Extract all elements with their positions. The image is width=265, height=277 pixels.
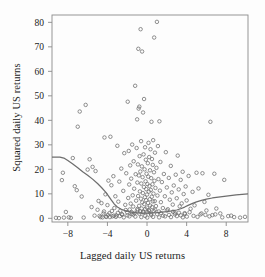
data-point [187,174,191,178]
data-point [139,170,143,174]
data-point [116,144,120,148]
data-point [191,190,195,194]
data-point [243,215,247,219]
x-tick-label: 0 [145,229,150,239]
data-point [222,178,226,182]
data-point [163,195,167,199]
data-point [149,176,153,180]
data-point [188,210,192,214]
y-tick-label: 20 [35,165,45,175]
data-point [182,192,186,196]
data-point [62,216,66,220]
data-point [215,207,219,211]
data-point [134,199,138,203]
data-point [154,204,158,208]
data-point [205,209,209,213]
data-point [84,103,88,107]
y-tick-label: 40 [35,116,45,126]
data-point [150,120,154,124]
y-tick-label: 10 [35,189,45,199]
data-point [107,179,111,183]
data-points [54,20,247,220]
data-point [146,182,150,186]
data-point [139,27,143,31]
x-tick-label: 8 [224,229,229,239]
data-point [140,50,144,54]
y-tick-label: 70 [35,42,45,52]
data-point [114,195,118,199]
data-point [167,176,171,180]
data-point [172,184,176,188]
data-point [71,156,75,160]
data-point [141,111,145,115]
y-tick-label: 50 [35,91,45,101]
data-point [219,212,223,216]
data-point [90,205,94,209]
data-point [139,139,143,143]
data-point [179,178,183,182]
data-point [64,210,68,214]
data-point [123,151,127,155]
data-point [151,138,155,142]
data-point [150,157,154,161]
data-point [100,201,104,205]
data-point [143,168,147,172]
data-point [153,179,157,183]
data-point [157,177,161,181]
data-point [112,174,116,178]
data-point [149,147,153,151]
data-point [169,164,173,168]
data-point [174,173,178,177]
data-point [193,204,197,208]
data-point [162,172,166,176]
data-point [158,120,162,124]
data-point [131,205,135,209]
data-point [165,186,169,190]
data-point [127,149,131,153]
data-point [158,189,162,193]
data-point [197,187,201,191]
x-tick-label: 4 [184,229,189,239]
y-tick-label: 0 [39,214,44,224]
data-point [82,216,86,220]
data-point [153,151,157,155]
data-point [94,169,98,173]
data-point [131,194,135,198]
data-point [169,215,173,219]
data-point [207,193,211,197]
data-point [117,200,121,204]
data-point [124,172,128,176]
data-point [118,180,122,184]
data-point [128,164,132,168]
data-point [160,180,164,184]
data-point [151,163,155,167]
data-point [152,36,156,40]
data-point [171,203,175,207]
data-point [109,135,113,139]
data-point [221,216,225,220]
data-point [127,183,131,187]
figure-container: −8−404801020304050607080 Lagged daily US… [0,0,265,277]
data-point [80,195,84,199]
y-axis-label: Squared daily US returns [11,18,22,218]
data-point [204,213,208,217]
data-point [159,200,163,204]
fit-curve [52,157,248,213]
data-point [140,165,144,169]
data-point [106,203,110,207]
data-point [140,215,144,219]
data-point [184,185,188,189]
data-point [147,141,151,145]
data-point [137,47,141,51]
data-point [155,20,159,24]
data-point [86,168,90,172]
data-point [151,183,155,187]
data-point [196,215,200,219]
y-tick-label: 60 [35,67,45,77]
axis-ticks [48,22,226,226]
data-point [168,198,172,202]
data-point [213,172,217,176]
data-point [141,175,145,179]
data-point [180,202,184,206]
scatter-plot-svg: −8−404801020304050607080 [0,0,265,277]
